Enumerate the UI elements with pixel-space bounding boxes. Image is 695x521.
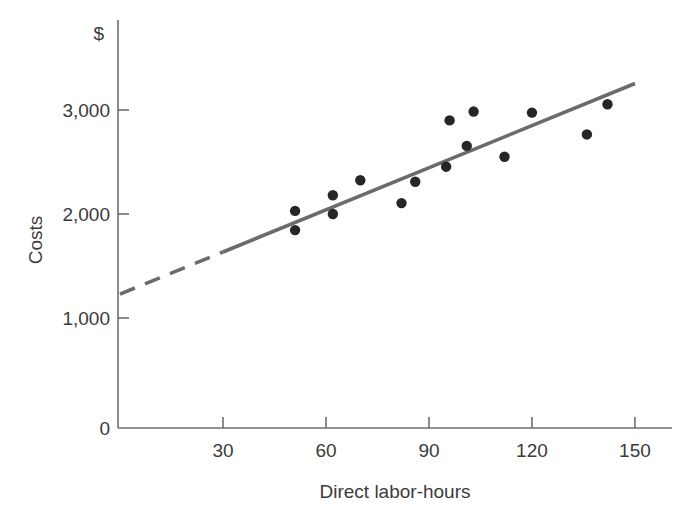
- data-point: [441, 161, 451, 171]
- y-tick-group: 01,0002,0003,000: [62, 100, 129, 439]
- data-point: [527, 107, 537, 117]
- regression-line-solid: [223, 83, 635, 251]
- x-axis-title: Direct labor-hours: [320, 481, 471, 502]
- data-point: [444, 115, 454, 125]
- data-point: [410, 177, 420, 187]
- x-tick-group: 306090120150: [212, 417, 650, 461]
- y-tick-label: 2,000: [62, 204, 110, 225]
- regression-line-dashed: [120, 252, 223, 294]
- data-point: [602, 99, 612, 109]
- data-point: [462, 141, 472, 151]
- data-point: [328, 190, 338, 200]
- y-axis-unit-symbol: $: [93, 23, 104, 44]
- x-tick-label: 90: [418, 440, 439, 461]
- y-axis-title: Costs: [25, 216, 46, 265]
- y-tick-label: 0: [99, 418, 110, 439]
- data-point-group: [290, 99, 613, 235]
- data-point: [328, 209, 338, 219]
- data-point: [468, 106, 478, 116]
- fit-line-group: [120, 83, 635, 294]
- plot-canvas: 01,0002,0003,000 306090120150 $ Costs Di…: [0, 0, 695, 521]
- y-tick-label: 1,000: [62, 308, 110, 329]
- x-tick-label: 120: [516, 440, 548, 461]
- data-point: [290, 225, 300, 235]
- data-point: [290, 206, 300, 216]
- x-tick-label: 150: [619, 440, 651, 461]
- x-tick-label: 30: [212, 440, 233, 461]
- scatter-chart: 01,0002,0003,000 306090120150 $ Costs Di…: [0, 0, 695, 521]
- data-point: [355, 175, 365, 185]
- x-tick-label: 60: [315, 440, 336, 461]
- data-point: [396, 198, 406, 208]
- y-tick-label: 3,000: [62, 100, 110, 121]
- data-point: [582, 129, 592, 139]
- data-point: [499, 152, 509, 162]
- axes-group: [118, 20, 672, 428]
